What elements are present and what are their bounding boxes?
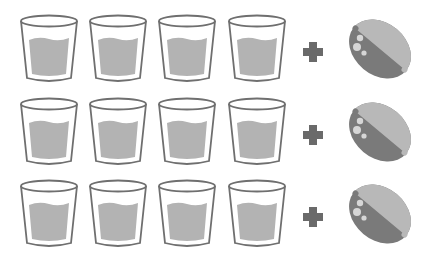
glass-of-water-icon [88, 14, 148, 84]
glass-of-water-icon [227, 179, 287, 249]
lemon-icon [342, 16, 418, 82]
glass-of-water-icon [157, 97, 217, 167]
row-3 [0, 179, 429, 251]
lemon-icon [342, 181, 418, 247]
glass-of-water-icon [157, 14, 217, 84]
lemon-icon [342, 99, 418, 165]
plus-icon [302, 206, 324, 228]
glass-of-water-icon [88, 179, 148, 249]
glass-of-water-icon [227, 14, 287, 84]
glass-of-water-icon [19, 97, 79, 167]
glass-of-water-icon [19, 179, 79, 249]
glass-of-water-icon [88, 97, 148, 167]
row-2 [0, 97, 429, 169]
plus-icon [302, 124, 324, 146]
glass-of-water-icon [227, 97, 287, 167]
row-1 [0, 14, 429, 86]
glass-of-water-icon [19, 14, 79, 84]
glass-of-water-icon [157, 179, 217, 249]
plus-icon [302, 41, 324, 63]
